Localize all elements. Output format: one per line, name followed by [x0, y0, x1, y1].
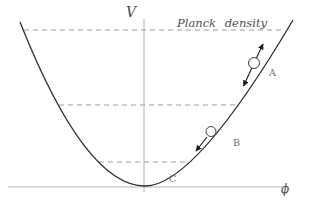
- potential-curve: [20, 20, 293, 186]
- planck-density-label: Planck density: [176, 16, 268, 30]
- rolling-arrow-b: [196, 137, 207, 151]
- point-label-a: A: [268, 67, 276, 78]
- point-label-c: C: [169, 173, 176, 184]
- ball-b: [206, 127, 216, 137]
- ball-a: [249, 58, 260, 69]
- point-label-b: B: [233, 137, 240, 148]
- diagram-canvas: V ϕ Planck density A B C: [0, 0, 311, 206]
- potential-diagram: V ϕ Planck density A B C: [0, 0, 311, 206]
- phi-axis-label: ϕ: [281, 182, 289, 196]
- v-axis-label: V: [126, 4, 138, 20]
